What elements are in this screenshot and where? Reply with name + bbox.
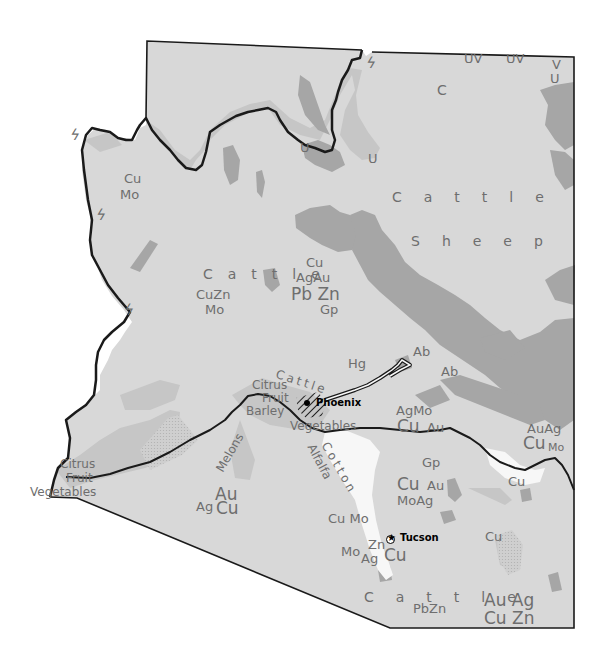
label-citrus-yuma: Citrus (60, 458, 95, 470)
label-vegetables-yuma: Vegetables (30, 486, 96, 498)
mineral-ag-au: AgAu (296, 271, 330, 284)
mineral-ag: Ag (196, 500, 213, 513)
label-vegetables-phoenix: Vegetables (290, 420, 356, 432)
mineral-cu: Cu (397, 476, 420, 493)
mineral-gp: Gp (422, 456, 440, 469)
mineral-u: U (550, 72, 560, 85)
label-citrus-phoenix: Citrus (252, 379, 287, 391)
mineral-zn: Zn (368, 538, 385, 551)
city-label-phoenix: Phoenix (316, 398, 361, 408)
mineral-au-ag: Au Ag (484, 592, 534, 609)
mineral-cu: Cu (216, 500, 239, 517)
mineral-mo-ag: MoAg (397, 494, 433, 507)
label-sheep: Sheep (411, 234, 565, 248)
mineral-mo: Mo (548, 442, 564, 453)
phoenix-marker-icon (304, 400, 310, 406)
label-fruit-phoenix: Fruit (262, 392, 289, 404)
mineral-cu: Cu (124, 172, 141, 185)
mineral-cu-mo: Cu Mo (328, 512, 369, 525)
mineral-ab: Ab (413, 345, 430, 358)
mineral-cu: Cu (485, 530, 502, 543)
mineral-au: Au (427, 479, 444, 492)
mineral-cu: Cu (306, 256, 323, 269)
mineral-hg: Hg (348, 357, 366, 370)
label-cattle-north: Cattle (392, 190, 566, 204)
mineral-cu-zn: Cu Zn (484, 610, 534, 627)
mineral-ab: Ab (441, 365, 458, 378)
mineral-u: U (300, 141, 310, 154)
label-fruit-yuma: Fruit (66, 472, 93, 484)
mineral-ag: Ag (361, 552, 378, 565)
mineral-u: U (368, 152, 378, 165)
mineral-mo: Mo (205, 303, 224, 316)
label-barley: Barley (246, 405, 284, 417)
mineral-pb-zn: PbZn (413, 602, 446, 615)
label-c-north: C (437, 83, 462, 97)
mineral-cu: Cu (397, 418, 420, 435)
mineral-v: V (552, 58, 561, 71)
mineral-cu-zn: CuZn (196, 288, 230, 301)
mineral-cu: Cu (384, 547, 407, 564)
mineral-au: Au (427, 421, 444, 434)
tucson-star-icon: ★ (387, 533, 396, 543)
arizona-resource-map (0, 0, 607, 666)
mineral-mo: Mo (341, 545, 360, 558)
mineral-cu: Cu (508, 475, 525, 488)
mineral-gp: Gp (320, 303, 338, 316)
mineral-cu: Cu (523, 435, 546, 452)
mineral-pb-zn: Pb Zn (291, 286, 340, 303)
mineral-uv: UV (506, 52, 524, 65)
mineral-uv: UV (464, 52, 482, 65)
city-label-tucson: Tucson (400, 533, 439, 543)
mineral-mo: Mo (120, 188, 139, 201)
